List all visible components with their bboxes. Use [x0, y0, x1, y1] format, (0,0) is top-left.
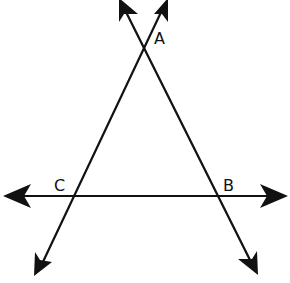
arrow-top-right-icon	[154, 0, 168, 22]
point-label-c: C	[54, 176, 65, 195]
line-ab	[124, 8, 252, 264]
point-label-b: B	[223, 176, 234, 195]
triangle-diagram: A C B	[0, 0, 290, 283]
arrow-bottom-left-icon	[34, 252, 52, 276]
line-ac	[41, 8, 163, 266]
point-label-a: A	[154, 29, 165, 48]
